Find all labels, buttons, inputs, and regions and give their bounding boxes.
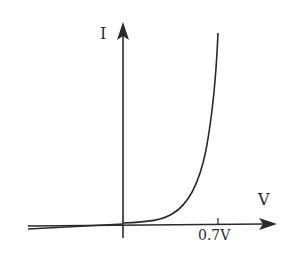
y-axis-label: I [100, 26, 106, 42]
tick-label: 0.7V [198, 228, 230, 242]
x-axis-label: V [258, 192, 270, 208]
x-axis [28, 218, 277, 230]
y-axis [117, 22, 129, 238]
iv-diagram: I V 0.7V [0, 0, 295, 260]
forward-bias-curve [123, 33, 218, 223]
